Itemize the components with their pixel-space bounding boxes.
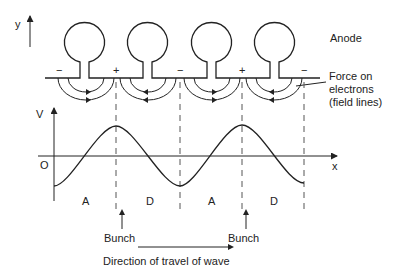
v-axis: V bbox=[36, 108, 54, 201]
region-label-decelerating: D bbox=[270, 195, 278, 207]
bunch-label: Bunch bbox=[104, 232, 135, 244]
force-label-line1: Force on bbox=[329, 70, 372, 82]
pole-sign-minus: − bbox=[177, 64, 183, 76]
region-label-accelerating: A bbox=[208, 195, 216, 207]
region-label-decelerating: D bbox=[146, 195, 154, 207]
force-label-line2: electrons bbox=[329, 83, 374, 95]
anode-label: Anode bbox=[330, 32, 362, 44]
pole-sign-minus: − bbox=[301, 64, 307, 76]
pole-sign-plus: + bbox=[239, 64, 245, 76]
bunch-markers: Bunch Bunch bbox=[104, 212, 259, 244]
force-label: Force on electrons (field lines) bbox=[296, 70, 382, 108]
y-axis-label: y bbox=[15, 18, 21, 30]
magnetron-wave-diagram: y − + − + − Anode Fo bbox=[0, 0, 401, 271]
x-axis-label: x bbox=[332, 160, 338, 172]
pole-sign-minus: − bbox=[56, 64, 62, 76]
field-lines bbox=[58, 78, 302, 103]
force-label-line3: (field lines) bbox=[329, 96, 382, 108]
direction-of-travel: Direction of travel of wave bbox=[103, 247, 231, 267]
region-label-accelerating: A bbox=[82, 195, 90, 207]
y-axis: y bbox=[15, 16, 30, 47]
bunch-label: Bunch bbox=[228, 232, 259, 244]
pole-sign-plus: + bbox=[113, 64, 119, 76]
origin-label: O bbox=[40, 159, 49, 171]
v-axis-label: V bbox=[36, 108, 44, 120]
direction-label: Direction of travel of wave bbox=[103, 255, 230, 267]
